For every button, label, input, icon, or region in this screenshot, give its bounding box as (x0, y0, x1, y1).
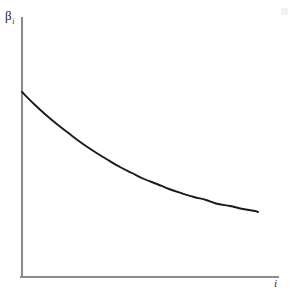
axes-group (21, 18, 278, 277)
x-axis-label: i (274, 278, 277, 289)
y-axis-label-symbol: β (5, 8, 12, 23)
scan-artifact (281, 8, 288, 15)
y-axis-label: βi (5, 9, 14, 26)
decay-curve (22, 92, 258, 212)
chart-figure (0, 0, 301, 299)
y-axis-label-subscript: i (12, 17, 14, 26)
